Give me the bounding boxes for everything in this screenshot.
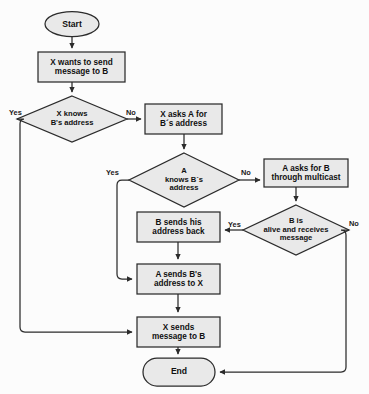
node-shape-b-alive [243,205,349,255]
flowchart-canvas: Start X wants to send message to B X kno… [0,0,369,394]
edge-a-knows-yes-to-a-sends [117,180,132,279]
node-shape-a-knows [129,153,239,207]
node-shape-end [143,358,215,386]
node-shape-b-sends [137,212,220,242]
node-shape-x-knows [17,96,127,142]
node-shape-x-sends [137,317,220,347]
node-shapes [17,12,349,387]
edge-x-knows-yes-to-x-sends [17,119,132,332]
edge-b-alive-no-to-end [220,230,349,372]
flowchart-graphics [0,0,369,394]
node-shape-start [45,12,99,37]
node-shape-a-sends [137,264,220,294]
node-shape-a-multicast [264,159,348,187]
node-shape-x-asks-a [145,104,222,134]
node-shape-x-wants [38,52,125,82]
